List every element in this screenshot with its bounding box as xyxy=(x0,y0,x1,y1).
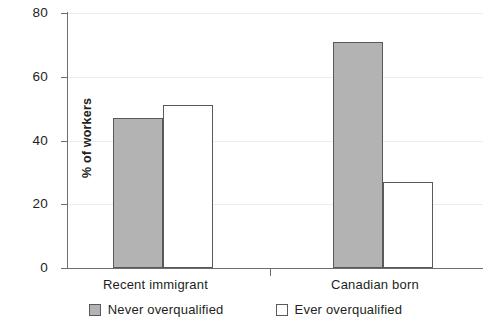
legend-label-never-overqualified: Never overqualified xyxy=(108,302,224,317)
bar-recent-immigrant-never-overqualified xyxy=(113,118,163,268)
x-axis-group-divider-tick xyxy=(270,269,271,276)
y-tick-40 xyxy=(61,141,68,142)
y-tick-20 xyxy=(61,204,68,205)
legend-label-ever-overqualified: Ever overqualified xyxy=(295,302,403,317)
bar-chart: % of workers 80 60 40 20 0 Recent immigr… xyxy=(0,0,491,331)
x-axis-line xyxy=(67,268,483,269)
plot-area: % of workers xyxy=(68,13,483,268)
y-axis-title: % of workers xyxy=(80,58,94,218)
legend-item-never-overqualified: Never overqualified xyxy=(89,302,224,317)
gridline-60 xyxy=(68,77,483,78)
y-tick-80 xyxy=(61,13,68,14)
y-tick-label-40: 40 xyxy=(0,133,48,148)
y-tick-label-60: 60 xyxy=(0,69,48,84)
legend-swatch-outline-square-icon xyxy=(276,304,288,316)
y-tick-0 xyxy=(61,268,68,269)
chart-legend: Never overqualified Ever overqualified xyxy=(0,302,491,317)
x-category-label-canadian-born: Canadian born xyxy=(285,277,465,292)
y-tick-label-20: 20 xyxy=(0,196,48,211)
gridline-80 xyxy=(68,13,483,14)
legend-item-ever-overqualified: Ever overqualified xyxy=(276,302,403,317)
y-tick-60 xyxy=(61,77,68,78)
legend-swatch-filled-square-icon xyxy=(89,304,101,316)
bar-recent-immigrant-ever-overqualified xyxy=(163,105,213,268)
x-category-label-recent-immigrant: Recent immigrant xyxy=(63,277,248,292)
bar-canadian-born-ever-overqualified xyxy=(383,182,433,268)
bar-canadian-born-never-overqualified xyxy=(333,42,383,268)
y-tick-label-80: 80 xyxy=(0,5,48,20)
y-tick-label-0: 0 xyxy=(0,260,48,275)
